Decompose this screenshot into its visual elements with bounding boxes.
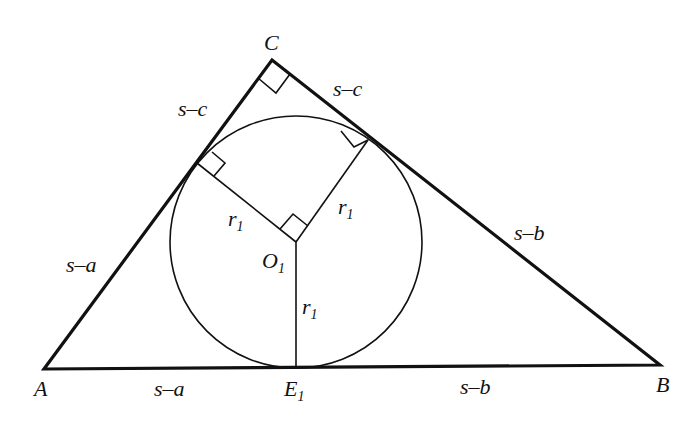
right-angle-marker-ac: [212, 152, 225, 176]
vertex-label-a: A: [32, 376, 48, 401]
segment-label-ac-lower: s–a: [66, 252, 97, 277]
segment-label-cb-lower: s–b: [514, 220, 545, 245]
vertex-label-c: C: [264, 30, 279, 55]
segment-label-ab-left: s–a: [154, 376, 185, 401]
right-angle-marker-o1: [280, 214, 308, 229]
radius-label-right: r1: [338, 194, 354, 222]
radius-label-left: r1: [228, 206, 244, 234]
radius-label-bottom: r1: [302, 294, 318, 322]
center-label: O1: [262, 248, 285, 276]
tangent-point-label: E1: [283, 376, 304, 404]
incircle-diagram: C A B O1 E1 r1 r1 r1 s–c s–c s–a s–b s–a…: [0, 0, 699, 425]
right-angle-marker-c: [258, 74, 290, 93]
segment-label-ac-upper: s–c: [178, 96, 208, 121]
radius-to-ac: [197, 163, 296, 242]
vertex-label-b: B: [656, 372, 669, 397]
diagram-canvas: C A B O1 E1 r1 r1 r1 s–c s–c s–a s–b s–a…: [0, 0, 699, 425]
segment-label-ab-right: s–b: [460, 374, 491, 399]
segment-label-cb-upper: s–c: [333, 76, 363, 101]
radius-to-cb: [296, 140, 368, 242]
